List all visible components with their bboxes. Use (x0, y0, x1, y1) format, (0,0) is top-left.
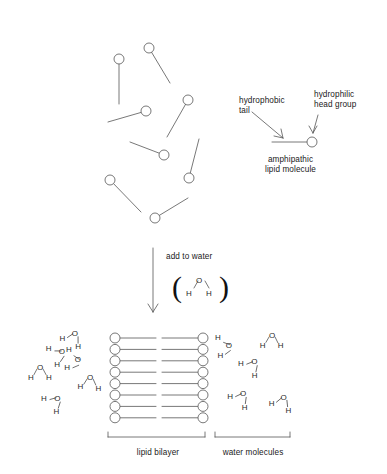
paren-close: ) (219, 272, 229, 302)
water-left-5-hydrogen-left: H (41, 394, 47, 403)
water-left-4-oxygen: O (87, 373, 93, 382)
water-molecules-left-group: OHHOHHOHHOHHOHHOHH (28, 323, 103, 420)
bilayer-head-right-3 (198, 367, 208, 377)
bilayer-head-right-1 (198, 344, 208, 354)
arrow-head-right (153, 304, 158, 312)
water-right-2-hydrogen-left: H (238, 359, 244, 368)
water-right-1: OHH (260, 330, 285, 350)
water-right-0-bond-right (225, 351, 231, 355)
water-left-2-hydrogen-right: H (54, 360, 60, 369)
bottom-brackets-group (108, 432, 290, 437)
bilayer-head-right-6 (198, 401, 208, 411)
water-right-3-hydrogen-left: H (227, 392, 233, 401)
water-left-1-oxygen: O (72, 329, 78, 338)
water-left-3-oxygen: O (75, 355, 81, 364)
bilayer-head-left-1 (110, 344, 120, 354)
water-left-0-oxygen: O (37, 363, 43, 372)
water-left-4-hydrogen-right: H (96, 384, 102, 393)
bilayer-head-left-5 (110, 390, 120, 400)
bilayer-head-right-2 (198, 356, 208, 366)
water-right-3-hydrogen-right: H (242, 403, 248, 412)
lipid-tail-0 (152, 52, 170, 83)
water-right-4: OHH (266, 388, 299, 417)
hydrophobic-tail-label: hydrophobic tail (239, 96, 285, 116)
water-right-4-hydrogen-left: H (269, 399, 275, 408)
dispersed-lipids-group (105, 43, 199, 223)
water-left-4-hydrogen-left: H (78, 382, 84, 391)
water-right-1-hydrogen-right: H (278, 341, 284, 350)
water-right-0: OHH (214, 331, 235, 361)
legend-group (252, 112, 318, 147)
water-left-2-hydrogen-left: H (46, 344, 52, 353)
water-right-0-hydrogen-left: H (215, 333, 221, 342)
lipid-head-6 (105, 175, 115, 185)
bilayer-head-left-7 (110, 413, 120, 423)
lipid-bilayer-diagram: OHHOHHOHHOHHOHHOHHOHHOHHOHHOHHOHH hydrop… (0, 0, 387, 474)
hydrophilic-head-arrow-head-a (309, 126, 313, 133)
add-to-water-arrow (148, 248, 158, 312)
water-left-1-hydrogen-right: H (75, 342, 81, 351)
add-to-water-label: add to water (166, 252, 212, 262)
arrow-head-left (148, 304, 153, 312)
lipid-head-0 (144, 43, 154, 53)
lipid-tail-3 (167, 104, 186, 137)
lipid-bilayer-label: lipid bilayer (118, 448, 198, 458)
water-left-3-bond-right (73, 365, 79, 368)
water-left-0-hydrogen-right: H (46, 373, 52, 382)
water-hydrogen-right-atom: H (206, 289, 212, 298)
water-left-3-hydrogen-right: H (64, 363, 70, 372)
water-right-4-hydrogen-right: H (285, 406, 291, 415)
amphipathic-lipid-molecule-label: amphipathic lipid molecule (265, 155, 316, 175)
water-left-5-hydrogen-right: H (54, 407, 60, 416)
water-molecules-label: water molecules (213, 448, 293, 458)
water-molecules-right-group: OHHOHHOHHOHHOHH (214, 330, 299, 416)
water-left-1-hydrogen-left: H (59, 334, 65, 343)
lipid-head-3 (183, 95, 193, 105)
lipid-head-2 (141, 106, 151, 116)
lipid-tail-4 (130, 142, 159, 153)
water-oxygen-atom: O (196, 276, 202, 285)
bilayer-head-right-4 (198, 379, 208, 389)
water-right-1-hydrogen-left: H (260, 341, 266, 350)
water-right-2-oxygen: O (251, 357, 257, 366)
lipid-head-4 (159, 150, 169, 160)
water-left-2-oxygen: O (59, 347, 65, 356)
water-right-4-oxygen: O (281, 393, 287, 402)
bilayer-head-right-7 (198, 413, 208, 423)
lipid-tail-2 (108, 112, 141, 122)
water-left-5-oxygen: O (54, 394, 60, 403)
water-left-0: OHH (28, 363, 52, 382)
paren-open: ( (172, 272, 182, 302)
water-left-5: OHH (37, 384, 72, 419)
water-right-0-hydrogen-right: H (217, 351, 223, 360)
water-left-3-hydrogen-left: H (66, 345, 72, 354)
water-right-2: OHH (234, 349, 269, 383)
bilayer-head-right-0 (198, 333, 208, 343)
water-right-3: OHH (223, 381, 258, 414)
lipid-tail-7 (159, 198, 188, 215)
water-left-4: OHH (77, 372, 103, 393)
water-left-2-bond-right (59, 356, 65, 361)
bilayer-head-right-5 (198, 390, 208, 400)
legend-lipid-head (307, 137, 317, 147)
bilayer-head-left-2 (110, 356, 120, 366)
lipid-tail-6 (113, 184, 141, 212)
water-right-2-hydrogen-right: H (252, 371, 258, 380)
diagram-vector-layer: OHHOHHOHHOHHOHHOHHOHHOHHOHHOHHOHH (0, 0, 387, 474)
water-right-3-oxygen: O (240, 389, 246, 398)
water-right-1-oxygen: O (269, 331, 275, 340)
water-hydrogen-left-atom: H (186, 289, 192, 298)
lipid-head-1 (114, 54, 124, 64)
water-right-0-oxygen: O (226, 341, 232, 350)
bilayer-head-left-4 (110, 379, 120, 389)
hydrophilic-head-arrow-shaft (313, 115, 318, 133)
lipid-head-5 (184, 173, 194, 183)
lipid-head-7 (150, 213, 160, 223)
bilayer-head-left-0 (110, 333, 120, 343)
lipid-tail-5 (190, 139, 199, 173)
bilayer-head-left-6 (110, 401, 120, 411)
lipid-bilayer-group (110, 333, 208, 423)
water-left-0-hydrogen-left: H (28, 373, 34, 382)
hydrophilic-head-group-label: hydrophilic head group (314, 90, 356, 110)
bilayer-head-left-3 (110, 367, 120, 377)
